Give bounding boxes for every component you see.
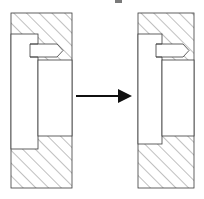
diagram-root (0, 0, 204, 199)
cavity-region-right (162, 60, 194, 136)
arrow-head (118, 89, 132, 103)
scan-artifact-smudge (115, 0, 122, 3)
panel-after (138, 13, 194, 188)
transition-arrow (76, 89, 132, 103)
cavity-region-left (38, 60, 72, 136)
panel-before (11, 13, 72, 188)
pin-body-right (156, 44, 189, 57)
cross-section-figure (0, 0, 204, 199)
pin-body-left (30, 44, 63, 57)
